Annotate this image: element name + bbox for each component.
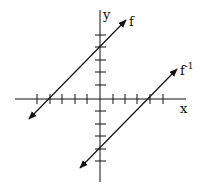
x-axis-label: x — [180, 102, 187, 115]
f-inverse-superscript: -1 — [185, 61, 194, 71]
line-f — [29, 20, 126, 119]
graph-f-and-inverse: y x f f-1 — [0, 0, 204, 189]
f-inverse-label: f-1 — [180, 64, 194, 77]
y-axis-label: y — [103, 8, 110, 21]
f-label-text: f — [129, 14, 134, 29]
line-f-inverse — [80, 69, 177, 168]
coordinate-plane — [0, 0, 204, 189]
f-label: f — [129, 15, 134, 28]
